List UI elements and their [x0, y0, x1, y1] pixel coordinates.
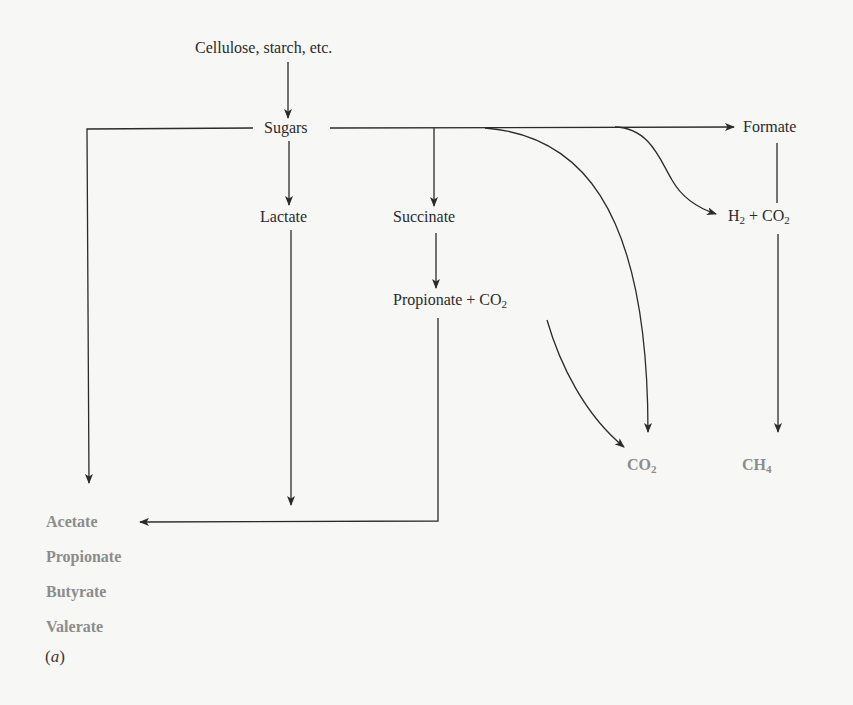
ch4-subscript: 4: [766, 463, 772, 475]
end-product-butyrate: Butyrate: [46, 583, 106, 601]
plus-co-text: + CO: [745, 207, 784, 224]
node-co2-product: CO2: [627, 456, 657, 478]
node-substrate: Cellulose, starch, etc.: [195, 39, 332, 57]
arrow-sugars-to-co2: [485, 128, 648, 432]
panel-label: (a): [45, 647, 65, 667]
end-product-propionate: Propionate: [46, 548, 121, 566]
node-sugars: Sugars: [264, 119, 308, 137]
arrow-sugars-to-h2co2: [615, 127, 716, 214]
panel-label-close: ): [59, 647, 65, 666]
node-ch4-product: CH4: [742, 456, 772, 478]
ch4-text: CH: [742, 456, 766, 473]
co2-text: CO: [627, 456, 651, 473]
end-product-acetate: Acetate: [46, 513, 98, 531]
propionate-co2-subscript: 2: [502, 298, 508, 310]
arrow-propionate-to-acetate: [140, 318, 438, 522]
panel-label-letter: a: [51, 647, 60, 666]
arrow-sugars-to-formate: [330, 127, 734, 128]
node-formate: Formate: [743, 118, 796, 136]
pathway-diagram: [0, 0, 853, 705]
co2-product-subscript: 2: [651, 463, 657, 475]
end-product-valerate: Valerate: [46, 618, 103, 636]
node-h2-co2: H2 + CO2: [728, 207, 790, 229]
node-succinate: Succinate: [393, 208, 455, 226]
h2-text: H: [728, 207, 740, 224]
node-propionate-co2: Propionate + CO2: [393, 291, 507, 313]
arrow-sugars-to-acetate-left: [87, 128, 253, 483]
propionate-co2-text: Propionate + CO: [393, 291, 502, 308]
arrow-propionate-to-co2: [547, 320, 624, 447]
co2-subscript: 2: [784, 214, 790, 226]
node-lactate: Lactate: [260, 208, 307, 226]
